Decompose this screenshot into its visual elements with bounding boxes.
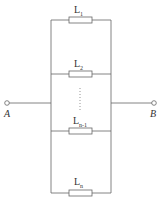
label-ln-1: Ln-1 [73, 115, 87, 128]
terminal-a-label: A [4, 108, 10, 119]
terminal-b-label: B [150, 108, 156, 119]
label-ln: Ln [74, 176, 83, 189]
resistor-ln-1 [69, 128, 92, 134]
resistor-l2 [69, 71, 92, 77]
label-l2: L2 [74, 58, 83, 71]
resistor-l1 [69, 17, 92, 23]
terminal-a-icon [5, 101, 10, 106]
label-l1: L1 [74, 4, 83, 17]
resistor-ln [69, 190, 92, 196]
terminal-b-icon [152, 101, 157, 106]
